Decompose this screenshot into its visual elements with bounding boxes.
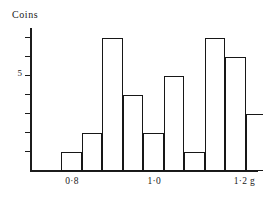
histogram-bar (164, 76, 185, 171)
bar-series (61, 30, 258, 171)
histogram-bar (143, 133, 164, 171)
histogram-bar (246, 114, 263, 171)
y-axis-tick-label: 5 (18, 69, 23, 78)
histogram-bar (102, 38, 123, 171)
histogram-bar (184, 152, 205, 171)
histogram-bar (82, 133, 103, 171)
x-axis-tick-label: 1·2 g (234, 176, 255, 186)
histogram-bar (225, 57, 246, 171)
histogram-bar (123, 95, 144, 171)
histogram-bar (205, 38, 226, 171)
x-axis-tick-label: 0·8 (65, 176, 79, 186)
histogram-figure: Coins 5 0·81·01·2 g (0, 0, 263, 197)
x-axis-tick-label: 1·0 (147, 176, 161, 186)
plot-area (30, 30, 258, 171)
y-axis-title: Coins (12, 9, 38, 20)
histogram-bar (61, 152, 82, 171)
